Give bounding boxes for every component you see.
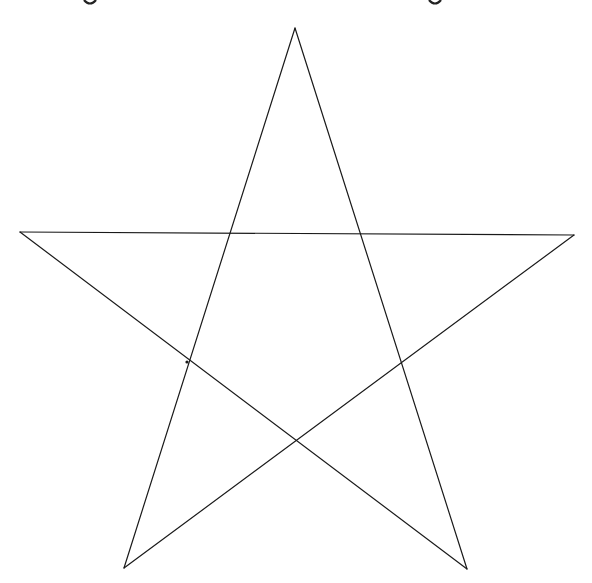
cropped-text-fragments [84,0,441,4]
intersection-marks [185,360,188,363]
star-edge-right-to-bottom-left [124,235,574,568]
cropped-glyph-fragment [84,0,96,4]
cropped-glyph-fragment [429,0,441,4]
star-edge-left-to-bottom-right [20,232,467,569]
star-edge-top-to-bottom-right [295,28,467,569]
star-edge-left-to-right [20,232,574,235]
star-edges [20,28,574,569]
document-page [0,0,592,583]
intersection-dot [185,360,188,363]
pentagram-diagram [0,0,592,583]
star-edge-top-to-bottom-left [124,28,295,568]
